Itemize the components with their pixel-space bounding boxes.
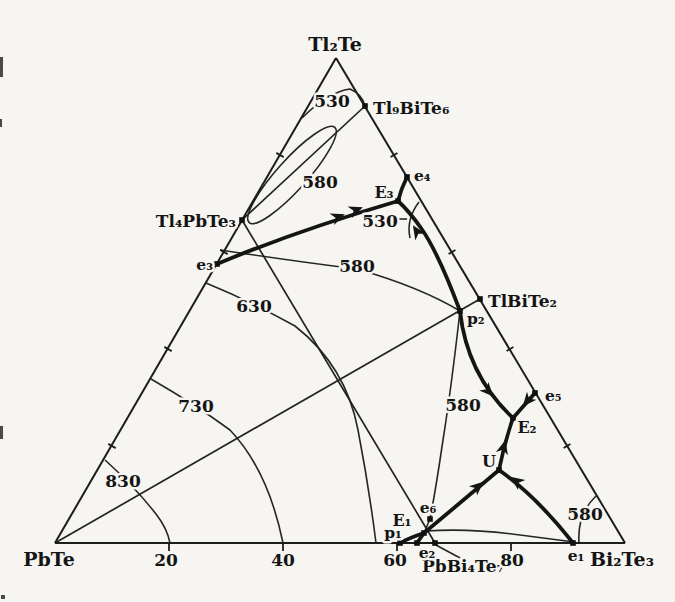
point-label-e2: e₂ xyxy=(419,543,436,562)
axis-tick-label-80: 80 xyxy=(500,550,524,570)
isotherm-label-830: 830 xyxy=(105,471,141,491)
edge-tl2te-pbte xyxy=(55,58,336,543)
curve-e1-U xyxy=(499,470,573,543)
vertex-label-pbte: PbTe xyxy=(23,548,75,570)
axis-tick-label-40: 40 xyxy=(271,550,295,570)
vertex-label-tl2te: Tl₂Te xyxy=(308,33,362,55)
point-label-p2: p₂ xyxy=(467,309,485,328)
point-label-U: U xyxy=(482,452,496,471)
point-label-e1: e₁ xyxy=(568,546,585,565)
marker-e6 xyxy=(427,516,433,522)
point-label-e4: e₄ xyxy=(414,166,431,185)
marker-E1 xyxy=(421,530,427,536)
compound-label-tl4pbte3: Tl₄PbTe₃ xyxy=(156,211,236,231)
isotherm-label-580-middle: 580 xyxy=(339,256,375,276)
marker-e5 xyxy=(532,390,538,396)
marker-tl9bite6 xyxy=(362,103,368,109)
join-pbte-tlbite2 xyxy=(55,299,480,543)
isotherm-label-730: 730 xyxy=(178,396,214,416)
field-boundary-e2-e1 xyxy=(426,530,574,542)
marker-E3 xyxy=(395,198,401,204)
vertex-label-bi2te3: Bi₂Te₃ xyxy=(590,548,654,570)
marker-U xyxy=(496,467,502,473)
compound-label-tl9bite6: Tl₉BiTe₆ xyxy=(373,98,449,118)
isotherm-label-580-loop: 580 xyxy=(302,172,338,192)
point-label-e3: e₃ xyxy=(196,255,213,274)
compound-label-tlbite2: TlBiTe₂ xyxy=(488,291,557,311)
point-label-E3: E₃ xyxy=(374,183,393,202)
isotherm-630 xyxy=(206,283,376,543)
marker-e4 xyxy=(404,174,410,180)
ternary-phase-diagram: Tl₂Te PbTe Bi₂Te₃ Tl₉BiTe₆ Tl₄PbTe₃ TlBi… xyxy=(0,0,675,602)
monovariant-curves xyxy=(217,177,573,543)
marker-p2 xyxy=(457,308,463,314)
isotherm-730 xyxy=(151,379,283,543)
point-label-E1: E₁ xyxy=(392,511,411,530)
scan-artifacts xyxy=(0,57,5,599)
point-label-E2: E₂ xyxy=(517,418,536,437)
marker-e3 xyxy=(214,261,220,267)
axis-tick-label-20: 20 xyxy=(154,550,178,570)
isotherm-label-530-upper: 530 xyxy=(314,91,350,111)
ternary-phase-diagram-page: Tl₂Te PbTe Bi₂Te₃ Tl₉BiTe₆ Tl₄PbTe₃ TlBi… xyxy=(0,0,675,602)
curve-e4-E3 xyxy=(398,177,407,201)
isotherm-label-580-corner: 580 xyxy=(567,504,603,524)
isotherm-contours xyxy=(105,89,596,543)
isotherm-580-lower xyxy=(430,311,460,519)
axis-tick-label-60: 60 xyxy=(383,550,407,570)
join-tl9bite6-tl4pbte3 xyxy=(242,106,365,220)
point-label-e5: e₅ xyxy=(545,386,562,405)
isotherm-label-530-right: 530 xyxy=(362,211,398,231)
isotherm-label-630: 630 xyxy=(236,296,272,316)
marker-tlbite2 xyxy=(477,296,483,302)
labels: Tl₂Te PbTe Bi₂Te₃ Tl₉BiTe₆ Tl₄PbTe₃ TlBi… xyxy=(23,33,654,576)
marker-tl4pbte3 xyxy=(239,217,245,223)
marker-E2 xyxy=(510,415,516,421)
isotherm-label-580-lower: 580 xyxy=(445,395,481,415)
marker-e1 xyxy=(570,540,576,546)
point-label-e6: e₆ xyxy=(420,498,437,517)
